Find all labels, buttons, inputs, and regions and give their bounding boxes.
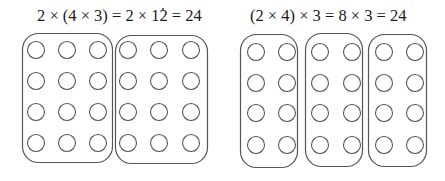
counter-circle-icon (376, 44, 393, 61)
counter-circle-icon (376, 105, 393, 122)
counter-circle-icon (407, 75, 424, 92)
counter-circle-icon (59, 135, 76, 152)
counter-circle-icon (28, 42, 45, 59)
counter-circle-icon (183, 73, 200, 90)
rounded-box (306, 34, 363, 167)
counter-circle-icon (248, 44, 265, 61)
counter-circle-icon (376, 137, 393, 154)
counter-circle-icon (120, 73, 137, 90)
rounded-box (23, 34, 113, 163)
counter-circle-icon (28, 73, 45, 90)
right-group-box-1 (241, 35, 298, 168)
rounded-box (241, 35, 298, 168)
left-panel-groups (23, 34, 208, 164)
counter-circle-icon (344, 105, 361, 122)
counter-circle-icon (344, 44, 361, 61)
rounded-box (369, 35, 427, 167)
rounded-box (116, 36, 208, 164)
counter-circle-icon (90, 135, 107, 152)
counter-circle-icon (151, 135, 168, 152)
counter-circle-icon (28, 104, 45, 121)
counter-circle-icon (183, 104, 200, 121)
counter-circle-icon (151, 42, 168, 59)
counter-circle-icon (312, 44, 329, 61)
counter-circle-icon (90, 104, 107, 121)
counter-circle-icon (59, 73, 76, 90)
counter-circle-icon (28, 135, 45, 152)
counter-circle-icon (120, 135, 137, 152)
right-group-box-2 (306, 34, 363, 167)
counter-circle-icon (90, 42, 107, 59)
counter-circle-icon (312, 137, 329, 154)
counter-circle-icon (344, 75, 361, 92)
counter-circle-icon (344, 137, 361, 154)
counter-circle-icon (407, 105, 424, 122)
counter-circle-icon (407, 137, 424, 154)
counter-circle-icon (183, 42, 200, 59)
counter-circle-icon (279, 105, 296, 122)
grouping-diagram (0, 0, 445, 181)
counter-circle-icon (151, 73, 168, 90)
counter-circle-icon (248, 105, 265, 122)
counter-circle-icon (120, 42, 137, 59)
counter-circle-icon (279, 137, 296, 154)
right-panel-groups (241, 34, 427, 168)
counter-circle-icon (183, 135, 200, 152)
counter-circle-icon (59, 42, 76, 59)
counter-circle-icon (90, 73, 107, 90)
left-group-box-2 (116, 36, 208, 164)
counter-circle-icon (248, 137, 265, 154)
counter-circle-icon (59, 104, 76, 121)
counter-circle-icon (279, 75, 296, 92)
counter-circle-icon (407, 44, 424, 61)
counter-circle-icon (248, 75, 265, 92)
counter-circle-icon (376, 75, 393, 92)
counter-circle-icon (312, 75, 329, 92)
left-group-box-1 (23, 34, 113, 163)
counter-circle-icon (151, 104, 168, 121)
right-group-box-3 (369, 35, 427, 167)
counter-circle-icon (120, 104, 137, 121)
counter-circle-icon (312, 105, 329, 122)
counter-circle-icon (279, 44, 296, 61)
